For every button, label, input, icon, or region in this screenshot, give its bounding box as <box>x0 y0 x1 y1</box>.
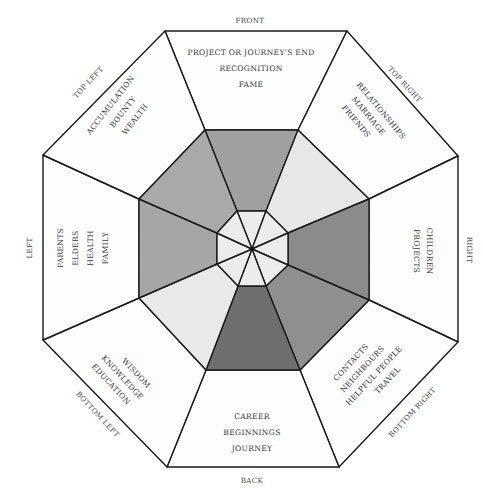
direction-right: RIGHT <box>465 237 474 264</box>
sector-left-line-2: ELDERS <box>71 231 80 266</box>
sector-right-line-1: CHILDREN <box>425 228 434 275</box>
direction-back: BACK <box>241 476 264 485</box>
sector-back-line-3: JOURNEY <box>231 444 273 453</box>
inner-octagon <box>217 211 288 286</box>
sector-back-line-1: CAREER <box>234 412 270 421</box>
sector-left-line-3: HEALTH <box>86 230 95 266</box>
sector-left-line-1: PARENTS <box>56 228 65 268</box>
direction-left: LEFT <box>25 237 34 258</box>
sector-back-line-2: BEGINNINGS <box>223 428 280 437</box>
direction-top-left: TOP LEFT <box>71 65 105 100</box>
sector-front-line-2: RECOGNITION <box>219 64 282 73</box>
sector-front-line-1: PROJECT OR JOURNEY'S END <box>187 48 314 57</box>
direction-front: FRONT <box>236 16 265 25</box>
sector-front-line-3: FAME <box>239 80 264 89</box>
sector-left-line-4: FAMILY <box>101 231 110 264</box>
center-point <box>250 247 253 250</box>
sector-right-line-2: PROJECTS <box>412 229 421 273</box>
bagua-diagram: FRONT TOP RIGHT RIGHT BOTTOM RIGHT BACK … <box>0 0 483 501</box>
